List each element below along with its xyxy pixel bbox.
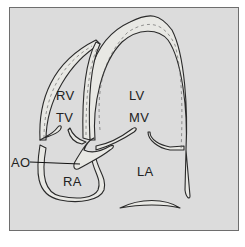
label-mv: MV [129,110,149,125]
label-la: LA [137,164,154,179]
mv-leaflet-left [96,128,136,150]
coronary-sinus [120,201,180,209]
label-tv: TV [56,110,73,125]
label-ra: RA [63,174,82,189]
label-ao: AO [11,155,30,170]
label-rv: RV [56,88,74,103]
mv-leaflet-right [148,132,184,150]
heart-diagram [0,0,245,247]
label-lv: LV [129,88,145,103]
